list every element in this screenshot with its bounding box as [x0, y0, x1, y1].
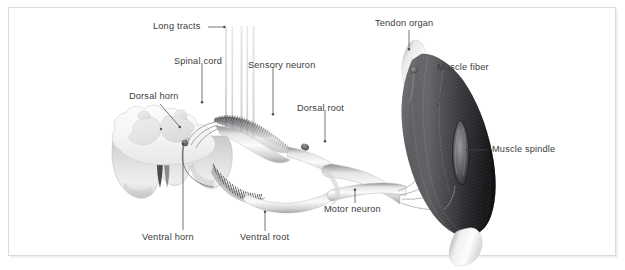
- central-canal: [160, 128, 163, 131]
- label-dorsal-horn: Dorsal horn: [129, 92, 179, 101]
- ventral-nerve-segment: [243, 189, 336, 213]
- label-sensory-neuron: Sensory neuron: [248, 61, 315, 70]
- anatomy-figure: Long tracts Spinal cord Dorsal horn Sens…: [0, 0, 625, 270]
- label-dorsal-root: Dorsal root: [297, 104, 344, 113]
- spinal-cord-cross-section: [108, 100, 232, 198]
- label-motor-neuron: Motor neuron: [324, 205, 381, 214]
- label-ventral-horn: Ventral horn: [142, 233, 194, 242]
- label-spinal-cord: Spinal cord: [174, 57, 222, 66]
- label-muscle-fiber: Muscle fiber: [437, 63, 489, 72]
- label-muscle-spindle: Muscle spindle: [492, 145, 555, 154]
- label-tendon-organ: Tendon organ: [375, 19, 433, 28]
- label-ventral-root: Ventral root: [240, 233, 289, 242]
- dorsal-root-bundle: [214, 115, 336, 176]
- lower-tendon: [449, 228, 482, 266]
- diagram-artwork: [0, 0, 625, 270]
- skeletal-muscle: [395, 40, 505, 266]
- label-long-tracts: Long tracts: [153, 22, 200, 31]
